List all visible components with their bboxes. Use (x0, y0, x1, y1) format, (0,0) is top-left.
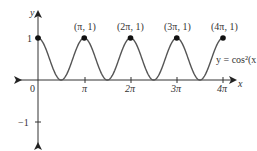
point-label-2pi: (2π, 1) (117, 21, 144, 33)
x-tick-label-3pi: 3π (170, 83, 182, 94)
y-axis-label: y (29, 7, 35, 18)
data-point (128, 35, 134, 41)
x-axis-label: x (237, 78, 243, 89)
x-tick-label-2pi: 2π (125, 83, 136, 94)
x-tick-label-pi: π (82, 83, 88, 94)
data-point (174, 35, 180, 41)
function-label: y = cos²(x (216, 54, 256, 66)
cos-squared-curve (38, 38, 223, 80)
data-point (35, 35, 41, 41)
point-label-4pi: (4π, 1) (211, 21, 238, 33)
point-label-pi: (π, 1) (74, 21, 96, 33)
chart: y x 0 π 2π 3π 4π 1 −1 (π, 1) (2π, 1) (3π… (0, 0, 257, 151)
plot-area: y x 0 π 2π 3π 4π 1 −1 (π, 1) (2π, 1) (3π… (0, 0, 257, 151)
point-label-3pi: (3π, 1) (164, 21, 191, 33)
x-tick-label-0: 0 (30, 83, 35, 94)
x-tick-label-4pi: 4π (217, 83, 228, 94)
data-point (220, 35, 226, 41)
marked-points (35, 35, 226, 41)
y-tick-label-1: 1 (27, 33, 32, 44)
y-tick-label-neg1: −1 (18, 117, 29, 128)
data-point (81, 35, 87, 41)
